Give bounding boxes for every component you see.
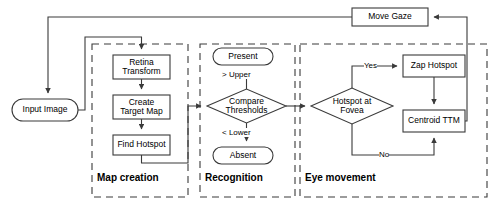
group-label-map-creation: Map creation: [97, 172, 159, 183]
node-zap-hotspot: [403, 55, 465, 77]
node-move-gaze: [352, 8, 428, 26]
edge-label-lower-threshold: < Lower: [222, 128, 251, 137]
node-hotspot-at-fovea: [311, 88, 393, 124]
node-present: [213, 48, 273, 65]
node-find-hotspot: [113, 135, 170, 155]
node-compare-thresholds: [207, 89, 286, 123]
edge-label-upper-threshold: > Upper: [222, 70, 251, 79]
edge-label-yes: Yes: [364, 61, 377, 70]
node-absent: [213, 147, 273, 164]
node-create-target-map: [113, 95, 170, 119]
group-label-recognition: Recognition: [205, 172, 263, 183]
node-input-image: [12, 99, 78, 121]
flowchart-canvas: Move Gaze Input Image Retina Transform C…: [0, 0, 500, 214]
node-retina-transform: [113, 55, 170, 79]
edge-label-no: No: [379, 150, 389, 159]
node-centroid-ttm: [403, 110, 465, 132]
group-label-eye-movement: Eye movement: [305, 172, 376, 183]
